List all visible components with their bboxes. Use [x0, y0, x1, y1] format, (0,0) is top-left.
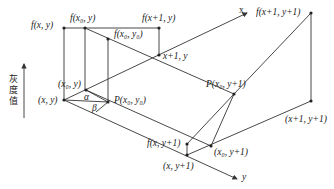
- label-xy1: (x, y+1): [163, 162, 194, 172]
- label-f-x1y1: f(x+1, y+1): [256, 8, 300, 18]
- label-beta: β: [92, 104, 97, 114]
- label-xy: (x, y): [38, 96, 58, 106]
- label-f-x1y: f(x+1, y): [142, 14, 175, 24]
- gray-axis-label: 灰度值: [8, 74, 18, 107]
- label-f-xy1: f(x, y+1): [147, 139, 180, 149]
- label-x-axis: x: [239, 6, 244, 16]
- label-f-x0y: f(x₀, y): [70, 14, 95, 24]
- label-x1y1: (x+1, y+1): [285, 115, 327, 125]
- label-p-x0y1: P(x₀, y+1): [206, 80, 246, 90]
- bilinear-interpolation-diagram: 灰度值 f(x, y) f(x₀, y) f(x+1, y) f(x₀, y₀)…: [0, 0, 334, 189]
- label-x1y: x+1, y: [163, 52, 187, 62]
- label-y-axis: y: [242, 173, 246, 183]
- label-f-xy: f(x, y): [31, 21, 53, 31]
- label-f-x0y0: f(x₀, y₀): [114, 30, 143, 40]
- label-x0y: (x₀, y): [58, 80, 81, 90]
- label-x0y1: (x₀, y+1): [214, 148, 248, 158]
- label-alpha: α: [84, 93, 89, 103]
- label-p-x0y0: P(x₀, y₀): [114, 96, 146, 106]
